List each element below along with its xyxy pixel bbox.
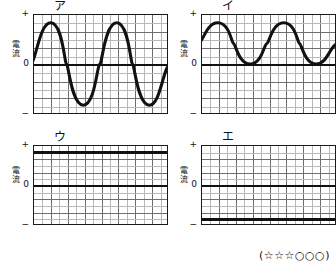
y-tick-plus: + [189, 140, 197, 149]
gridline-horizontal [202, 206, 335, 207]
panel-e: エ + 電 流 0 − [174, 145, 336, 225]
panel-e-graph [201, 145, 336, 225]
gridline-horizontal [202, 173, 335, 174]
panel-a-graph [33, 14, 168, 114]
gridline-horizontal [34, 166, 167, 167]
panel-i-waveform [202, 15, 335, 113]
gridline-horizontal [34, 213, 167, 214]
panel-e-label: エ [222, 131, 234, 143]
y-tick-plus: + [21, 9, 29, 18]
panel-a-y-axis: + 電 流 0 − [6, 14, 33, 114]
gridline-horizontal [202, 213, 335, 214]
gridline-horizontal [34, 159, 167, 160]
gridline-horizontal [34, 173, 167, 174]
difficulty-rating: (☆☆☆○○○) [259, 250, 330, 261]
y-tick-plus: + [189, 9, 197, 18]
y-tick-minus: − [189, 220, 197, 229]
panel-u-graph [33, 145, 168, 225]
panel-u-dc-line [34, 151, 167, 154]
panel-a-waveform [34, 15, 167, 113]
panel-u: ウ + 電 流 0 − [6, 145, 168, 225]
y-tick-zero: 0 [191, 59, 197, 68]
gridline-horizontal [34, 219, 167, 220]
panel-u-y-axis: + 電 流 0 − [6, 145, 33, 225]
gridline-horizontal [202, 179, 335, 180]
gridline-horizontal [34, 193, 167, 194]
gridline-horizontal [202, 193, 335, 194]
panel-i-graph [201, 14, 336, 114]
panel-i: イ + 電 流 0 − [174, 14, 336, 114]
y-axis-title: 電 流 [10, 166, 21, 184]
panel-e-zero-line [202, 185, 335, 187]
y-axis-title: 電 流 [178, 166, 189, 184]
panel-i-label: イ [222, 0, 234, 12]
gridline-horizontal [202, 199, 335, 200]
gridline-horizontal [202, 166, 335, 167]
gridline-horizontal [34, 206, 167, 207]
panel-u-label: ウ [54, 131, 66, 143]
gridline-horizontal [202, 153, 335, 154]
y-tick-zero: 0 [191, 180, 197, 189]
y-tick-minus: − [21, 109, 29, 118]
y-axis-title: 電 流 [10, 40, 21, 58]
panel-u-zero-line [34, 185, 167, 187]
panel-e-dc-line [202, 218, 335, 221]
panel-e-y-axis: + 電 流 0 − [174, 145, 201, 225]
waveform-figure-sheet: ア + 電 流 0 − イ + 電 流 0 − [0, 0, 336, 265]
y-tick-zero: 0 [23, 59, 29, 68]
y-tick-minus: − [189, 109, 197, 118]
y-tick-minus: − [21, 220, 29, 229]
y-tick-plus: + [21, 140, 29, 149]
gridline-horizontal [34, 179, 167, 180]
y-tick-zero: 0 [23, 180, 29, 189]
gridline-horizontal [34, 199, 167, 200]
panel-a-label: ア [54, 0, 66, 12]
y-axis-title: 電 流 [178, 40, 189, 58]
panel-a: ア + 電 流 0 − [6, 14, 168, 114]
panel-i-y-axis: + 電 流 0 − [174, 14, 201, 114]
gridline-horizontal [202, 159, 335, 160]
